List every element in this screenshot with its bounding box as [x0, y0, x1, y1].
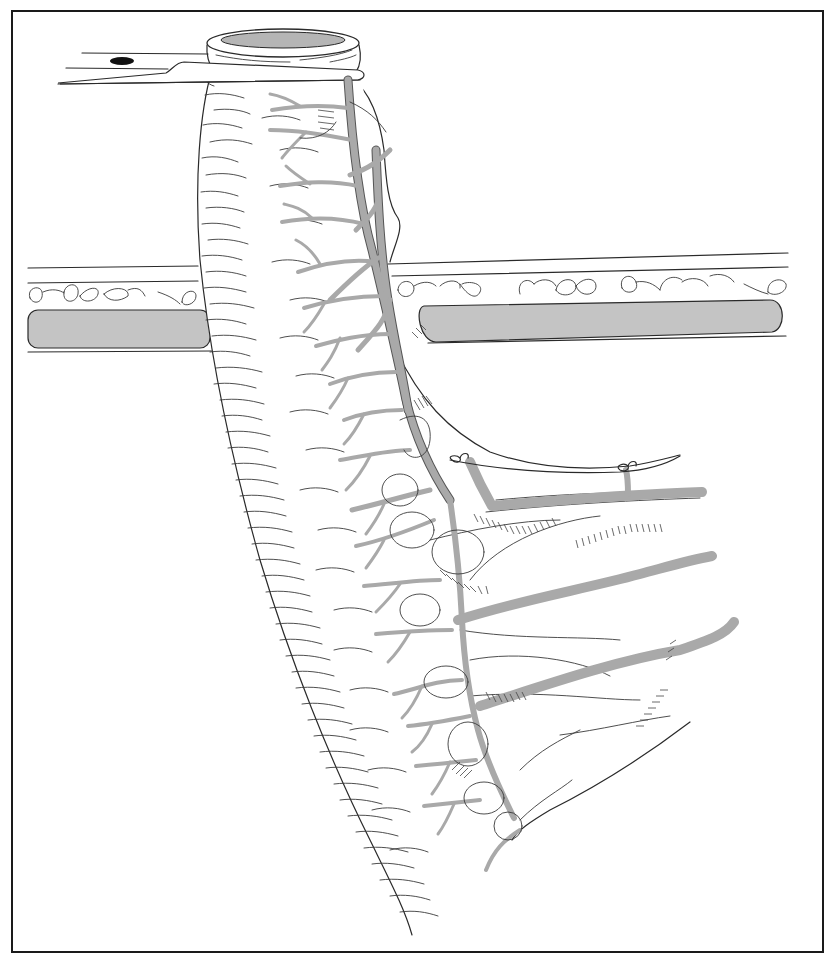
bowel-segment	[197, 29, 490, 935]
illustration-canvas	[0, 0, 835, 963]
abdominal-wall-right	[388, 253, 788, 343]
rod-hole	[110, 57, 134, 65]
surgical-illustration	[0, 0, 835, 963]
abdominal-wall-left	[28, 266, 212, 352]
muscle-layer-right	[419, 300, 782, 342]
muscle-layer-left	[28, 310, 210, 348]
bowel-lumen	[221, 32, 345, 48]
